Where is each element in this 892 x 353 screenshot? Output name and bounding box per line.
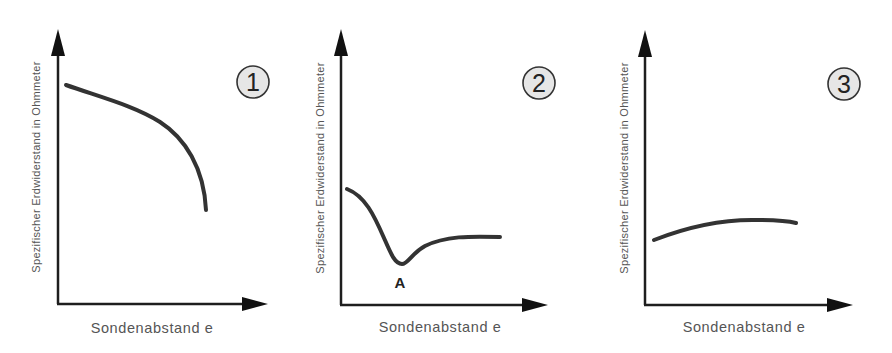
panel-1: 1 Sondenabstand e Spezifischer Erdwiders… — [30, 29, 269, 336]
x-axis-label-1: Sondenabstand e — [91, 320, 214, 336]
y-axis-arrow-icon — [638, 30, 652, 57]
x-axis-label-2: Sondenabstand e — [379, 319, 502, 335]
earth-resistance-diagrams: 1 Sondenabstand e Spezifischer Erdwiders… — [0, 0, 892, 353]
y-axis-label-3: Spezifischer Erdwiderstand in Ohmmeter — [618, 62, 630, 273]
y-axis-arrow-icon — [51, 29, 65, 56]
badge-2-label: 2 — [532, 69, 546, 97]
badge-1-label: 1 — [246, 68, 260, 96]
curve-1 — [66, 85, 206, 210]
y-axis-label-1: Spezifischer Erdwiderstand in Ohmmeter — [30, 61, 42, 272]
panel-3: 3 Sondenabstand e Spezifischer Erdwiders… — [618, 30, 860, 335]
x-axis-label-3: Sondenabstand e — [683, 319, 806, 335]
y-axis-label-2: Spezifischer Erdwiderstand in Ohmmeter — [314, 62, 326, 273]
badge-1: 1 — [237, 66, 269, 98]
point-a-label: A — [395, 274, 406, 291]
x-axis-arrow-icon — [242, 297, 268, 311]
curve-3 — [654, 220, 796, 240]
x-axis-arrow-icon — [827, 298, 853, 312]
badge-3-label: 3 — [837, 70, 851, 98]
badge-2: 2 — [523, 67, 555, 99]
x-axis-arrow-icon — [522, 298, 548, 312]
curve-2 — [347, 189, 500, 264]
panel-2: A 2 Sondenabstand e Spezifischer Erdwide… — [314, 29, 555, 335]
badge-3: 3 — [828, 68, 860, 100]
y-axis-arrow-icon — [334, 29, 348, 56]
